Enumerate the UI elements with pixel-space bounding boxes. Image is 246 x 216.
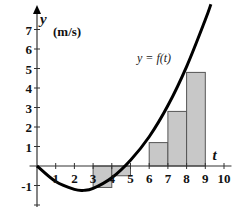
x-tick-label: 7	[165, 171, 172, 186]
x-tick-label: 3	[90, 171, 97, 186]
y-tick-label: 3	[26, 101, 33, 116]
velocity-chart: 12345678910-11234567y(m/s)ty = f(t)	[0, 0, 246, 216]
y-tick-label: 5	[26, 62, 33, 77]
x-tick-label: 10	[218, 171, 231, 186]
riemann-bar	[187, 72, 206, 166]
x-tick-label: 8	[183, 171, 190, 186]
y-tick-label: -1	[21, 179, 32, 194]
x-tick-label: 6	[146, 171, 153, 186]
y-tick-label: 4	[26, 81, 33, 96]
x-tick-label: 2	[71, 171, 78, 186]
y-tick-label: 2	[26, 120, 33, 135]
curve-label: y = f(t)	[136, 51, 171, 65]
x-axis-name: t	[212, 147, 217, 163]
x-tick-label: 9	[202, 171, 209, 186]
y-tick-label: 7	[26, 23, 33, 38]
y-tick-label: 6	[26, 42, 33, 57]
y-tick-label: 1	[26, 140, 33, 155]
y-axis-unit: (m/s)	[53, 24, 81, 39]
x-tick-label: 5	[127, 171, 134, 186]
riemann-bar	[168, 111, 187, 166]
y-axis-name: y	[38, 11, 47, 27]
riemann-bar	[149, 143, 168, 166]
x-tick-label: 4	[109, 171, 116, 186]
x-tick-label: 1	[52, 171, 59, 186]
